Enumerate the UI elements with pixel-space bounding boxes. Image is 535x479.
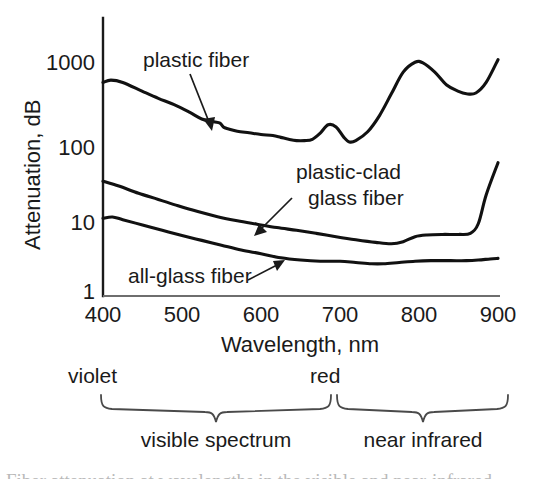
- arrowhead-plastic-fiber: [203, 117, 215, 131]
- y-tick-10: 10: [71, 210, 95, 235]
- spectrum-edge-labels: violet red: [68, 364, 340, 387]
- spectrum-band-labels: visible spectrum near infrared: [141, 428, 483, 451]
- spectrum-braces: [101, 395, 508, 422]
- x-axis-title: Wavelength, nm: [221, 332, 379, 357]
- y-axis-title: Attenuation, dB: [20, 100, 45, 250]
- label-plastic-fiber: plastic fiber: [143, 48, 249, 71]
- leader-all-glass: [248, 265, 277, 280]
- label-near-infrared: near infrared: [363, 428, 482, 451]
- y-axis-title-group: Attenuation, dB: [20, 100, 45, 250]
- x-tick-600: 600: [243, 302, 280, 327]
- x-tick-labels: 400 500 600 700 800 900: [85, 302, 517, 327]
- y-tick-100: 100: [58, 135, 95, 160]
- x-tick-500: 500: [164, 302, 201, 327]
- brace-near-infrared: [337, 395, 508, 422]
- figure-caption-cutoff: Fiber attenuation at wavelengths in the …: [6, 470, 526, 479]
- x-tick-900: 900: [480, 302, 517, 327]
- series-all-glass-fiber: [103, 217, 498, 264]
- label-all-glass-fiber: all-glass fiber: [128, 264, 252, 287]
- y-tick-1000: 1000: [46, 50, 95, 75]
- series-plastic-fiber: [103, 60, 498, 143]
- label-visible-spectrum: visible spectrum: [141, 428, 292, 451]
- x-tick-800: 800: [401, 302, 438, 327]
- x-tick-700: 700: [322, 302, 359, 327]
- label-violet: violet: [68, 364, 117, 387]
- label-red: red: [310, 364, 340, 387]
- label-plastic-clad-line1: plastic-clad: [296, 160, 401, 183]
- label-plastic-clad-line2: glass fiber: [308, 186, 404, 209]
- y-tick-labels: 1000 100 10 1: [46, 50, 95, 304]
- x-tick-400: 400: [85, 302, 122, 327]
- leader-plastic-clad: [261, 198, 292, 229]
- series-annotations: plastic fiber plastic-clad glass fiber a…: [128, 48, 404, 287]
- y-tick-1: 1: [83, 279, 95, 304]
- brace-visible-spectrum: [101, 395, 331, 422]
